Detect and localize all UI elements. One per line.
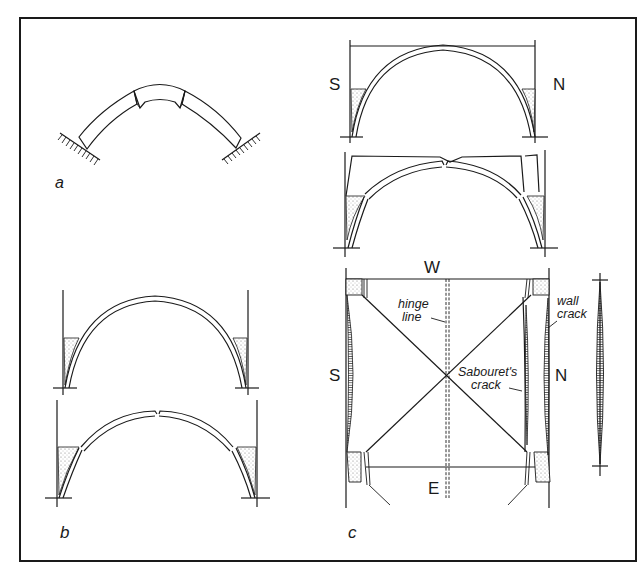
panel-a: a xyxy=(55,85,260,192)
compass-north-upper: N xyxy=(553,75,565,94)
panel-c: S N W E S N xyxy=(329,40,608,542)
arch-lower xyxy=(45,400,270,507)
vault-plan: W E S N xyxy=(329,258,608,508)
hinge-line xyxy=(446,279,449,498)
panel-label-b: b xyxy=(60,523,69,542)
hinge-line-label-1: hinge xyxy=(398,297,429,311)
sabouret-label-1: Sabouret's xyxy=(458,365,517,379)
compass-east: E xyxy=(428,479,439,498)
panel-label-c: c xyxy=(348,523,357,542)
sabouret-label-2: crack xyxy=(471,378,502,392)
figure: a xyxy=(0,0,643,581)
compass-south-upper: S xyxy=(329,75,340,94)
compass-south-plan: S xyxy=(329,366,340,385)
wall-crack-profile xyxy=(592,273,608,476)
compass-north-plan: N xyxy=(555,366,567,385)
vault-section-upper: S N xyxy=(329,40,565,143)
sabouret-crack xyxy=(523,297,528,452)
north-wall-crack xyxy=(544,298,549,455)
wall-crack-label-2: crack xyxy=(557,307,588,321)
hinge-line-label-2: line xyxy=(402,310,422,324)
arch-upper xyxy=(53,290,259,395)
compass-west: W xyxy=(424,258,440,277)
south-wall-crack xyxy=(347,295,353,452)
panel-label-a: a xyxy=(55,174,64,191)
vault-section-cracked xyxy=(333,150,558,257)
wall-crack-label-1: wall xyxy=(557,294,580,308)
panel-b: b xyxy=(45,290,270,542)
